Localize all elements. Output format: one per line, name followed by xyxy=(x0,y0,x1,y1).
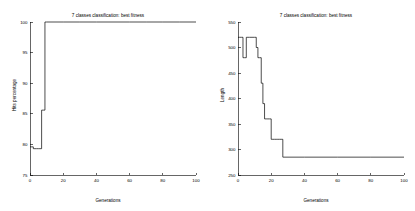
y-axis-title-right: Length xyxy=(220,88,225,102)
x-tick-label: 0 xyxy=(237,178,240,183)
chart-title-left: 7 classes classification: best fitness xyxy=(72,13,145,18)
y-ticks-left: 7580859095100 xyxy=(20,20,32,178)
x-axis-title-right: Generations xyxy=(303,198,329,203)
y-axis-title-left: Hits percentage xyxy=(12,78,17,111)
chart-title-right: 7 classes classification: best fitness xyxy=(280,13,353,18)
x-tick-label: 40 xyxy=(302,178,307,183)
x-tick-label: 100 xyxy=(400,178,408,183)
y-ticks-right: 250300350400450500550 xyxy=(228,20,240,178)
axes-left xyxy=(30,22,196,175)
chart-panel-length: 7 classes classification: best fitness 2… xyxy=(208,0,415,211)
hits-percentage-plot: 7 classes classification: best fitness 7… xyxy=(0,0,207,211)
x-tick-label: 80 xyxy=(160,178,165,183)
y-tick-label: 450 xyxy=(228,71,236,76)
x-tick-label: 80 xyxy=(368,178,373,183)
y-tick-label: 300 xyxy=(228,147,236,152)
y-tick-label: 85 xyxy=(23,111,28,116)
x-ticks-right: 020406080100 xyxy=(237,173,408,184)
chart-panel-hits-percentage: 7 classes classification: best fitness 7… xyxy=(0,0,207,211)
x-tick-label: 0 xyxy=(29,178,32,183)
y-tick-label: 350 xyxy=(228,122,236,127)
x-tick-label: 20 xyxy=(61,178,66,183)
y-tick-label: 250 xyxy=(228,173,236,178)
x-axis-title-left: Generations xyxy=(95,198,121,203)
x-tick-label: 40 xyxy=(94,178,99,183)
y-tick-label: 500 xyxy=(228,45,236,50)
y-tick-label: 400 xyxy=(228,96,236,101)
series-line-hits-percentage xyxy=(30,22,196,149)
y-tick-label: 90 xyxy=(23,81,28,86)
x-ticks-left: 020406080100 xyxy=(29,173,200,184)
x-tick-label: 20 xyxy=(269,178,274,183)
figure-canvas: 7 classes classification: best fitness 7… xyxy=(0,0,415,211)
x-tick-label: 60 xyxy=(335,178,340,183)
y-tick-label: 75 xyxy=(23,173,28,178)
y-tick-label: 550 xyxy=(228,20,236,25)
y-tick-label: 100 xyxy=(20,20,28,25)
y-tick-label: 95 xyxy=(23,50,28,55)
length-plot: 7 classes classification: best fitness 2… xyxy=(208,0,415,211)
x-tick-label: 100 xyxy=(192,178,200,183)
y-tick-label: 80 xyxy=(23,142,28,147)
x-tick-label: 60 xyxy=(127,178,132,183)
series-line-length xyxy=(238,37,404,157)
